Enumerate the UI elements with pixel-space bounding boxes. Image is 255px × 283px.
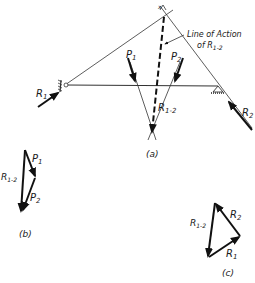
force-diagram: x Line of Action of R1-2 R1 R2 P1 (0, 0, 255, 283)
r12-label: R1-2 (158, 102, 177, 115)
p1-label: P1 (126, 49, 137, 62)
left-string-line (65, 10, 173, 85)
c-r1-label: R1 (226, 248, 237, 261)
b-p1-label: P1 (32, 153, 43, 166)
top-intersection-marker: x (157, 3, 166, 10)
b-p2-label: P2 (30, 192, 41, 205)
b-r12-label: R1-2 (1, 172, 17, 183)
p2-label: P2 (171, 51, 182, 64)
annotation-leader (165, 35, 184, 44)
left-support-icon (58, 80, 68, 92)
caption-b: (b) (19, 229, 32, 239)
c-r12-label: R1-2 (190, 218, 206, 229)
top-point-label: x (157, 3, 162, 10)
part-b: P1 P2 R1-2 (b) (1, 150, 43, 239)
b-r12-vector (21, 150, 25, 211)
r1-label: R1 (36, 88, 47, 101)
r2-label: R2 (242, 107, 254, 120)
caption-a: (a) (146, 149, 159, 159)
c-r12-vector (208, 203, 215, 256)
c-r2-label: R2 (230, 209, 242, 222)
annotation-line-1: Line of Action (187, 30, 242, 39)
beam-line (65, 85, 218, 86)
part-a: x Line of Action of R1-2 R1 R2 P1 (36, 3, 254, 159)
caption-c: (c) (222, 268, 234, 278)
part-c: R2 R1 R1-2 (c) (190, 203, 242, 278)
annotation-line-2: of R1-2 (197, 41, 223, 51)
